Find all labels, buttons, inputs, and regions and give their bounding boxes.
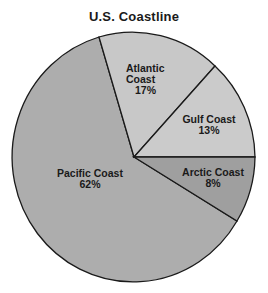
pie-chart	[0, 0, 268, 293]
label-atlantic-coast: Atlantic Coast 17%	[126, 63, 186, 96]
label-gulf-coast: Gulf Coast 13%	[178, 114, 240, 136]
label-pacific-coast: Pacific Coast 62%	[50, 168, 130, 190]
label-arctic-coast: Arctic Coast 8%	[178, 167, 248, 189]
